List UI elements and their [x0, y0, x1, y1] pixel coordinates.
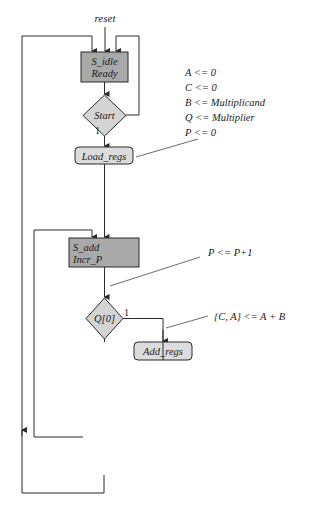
asmd-chart-lower	[0, 0, 311, 520]
